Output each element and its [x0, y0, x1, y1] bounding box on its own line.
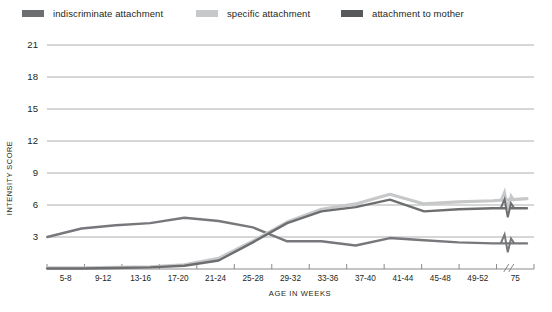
chart-plot-svg: 36912151821 5-89-1213-1617-2021-2425-282… — [0, 28, 552, 312]
x-tick-label: 25-28 — [243, 274, 264, 283]
legend-item-indiscriminate-attachment: indiscriminate attachment — [22, 9, 163, 18]
legend-item-label: specific attachment — [227, 9, 310, 18]
x-tick-label: 29-32 — [280, 274, 301, 283]
y-tick-label: 9 — [33, 167, 38, 178]
y-tick-label: 6 — [33, 199, 38, 210]
x-tick-label: 75 — [511, 274, 521, 283]
y-tick-label: 3 — [33, 231, 38, 242]
y-axis-title: INTENSITY SCORE — [5, 141, 14, 215]
legend-swatch-icon — [341, 10, 363, 17]
x-tick-label: 5-8 — [60, 274, 72, 283]
x-tick-label: 37-40 — [355, 274, 376, 283]
series-line — [47, 200, 527, 269]
legend-item-label: indiscriminate attachment — [53, 9, 163, 18]
y-tick-label: 21 — [27, 39, 38, 50]
x-tick-label: 9-12 — [95, 274, 112, 283]
data-series — [47, 194, 527, 268]
y-tick-label: 15 — [27, 103, 38, 114]
legend-item-specific-attachment: specific attachment — [196, 9, 310, 18]
legend-item-attachment-to-mother: attachment to mother — [341, 9, 464, 18]
legend-swatch-icon — [196, 10, 218, 17]
x-axis-title: AGE IN WEEKS — [269, 289, 331, 298]
x-tick-label: 49-52 — [467, 274, 488, 283]
y-tick-label: 18 — [27, 71, 38, 82]
legend-swatch-icon — [22, 10, 44, 17]
x-tick-label: 21-24 — [205, 274, 226, 283]
x-axis-ticks: 5-89-1213-1617-2021-2425-2829-3233-3637-… — [60, 274, 520, 283]
x-tick-label: 17-20 — [168, 274, 189, 283]
x-tick-label: 33-36 — [317, 274, 338, 283]
chart-legend: indiscriminate attachment specific attac… — [0, 0, 552, 28]
chart-container: indiscriminate attachment specific attac… — [0, 0, 552, 312]
axis-break-icon — [501, 192, 515, 272]
plot-area: 36912151821 5-89-1213-1617-2021-2425-282… — [0, 28, 552, 312]
y-axis-ticks: 36912151821 — [27, 39, 38, 242]
y-tick-label: 12 — [27, 135, 38, 146]
x-tick-label: 41-44 — [392, 274, 413, 283]
legend-item-label: attachment to mother — [372, 9, 464, 18]
x-tick-label: 45-48 — [430, 274, 451, 283]
x-tick-label: 13-16 — [130, 274, 151, 283]
